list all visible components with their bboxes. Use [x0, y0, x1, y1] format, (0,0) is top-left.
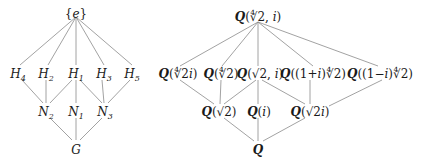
node-Q-fourthroot2: Q(∜2)	[203, 66, 238, 81]
edge	[76, 17, 104, 65]
node-Q-1minusi-fourthroot2: Q((1−i)∜2)	[347, 66, 413, 81]
edge	[50, 80, 72, 103]
edge	[102, 80, 104, 103]
edge	[220, 80, 221, 104]
node-G: G	[71, 143, 81, 157]
node-Q-1plusi-fourthroot2: Q((1+i)∜2)	[280, 66, 346, 81]
galois-correspondence-diagram: {e} H4 H2 H1 H3 H5 N2 N1 N3 G Q(∜2, i) Q…	[0, 0, 429, 160]
node-N3: N3	[96, 105, 113, 121]
right-lattice-edges	[180, 22, 382, 141]
edge	[224, 80, 256, 104]
node-Q-i: Q(i)	[247, 105, 271, 119]
node-identity: {e}	[65, 7, 87, 21]
left-lattice-nodes: {e} H4 H2 H1 H3 H5 N2 N1 N3 G	[9, 7, 140, 157]
edge	[22, 80, 43, 103]
edge	[180, 80, 214, 104]
edge	[48, 17, 76, 65]
node-N1: N1	[67, 105, 84, 121]
node-H5: H5	[123, 67, 140, 83]
node-Q-sqrt2-times-i: Q(√2i)	[291, 105, 330, 119]
node-H2: H2	[37, 67, 54, 83]
edge	[50, 118, 72, 140]
node-H1: H1	[67, 67, 84, 83]
edge	[258, 22, 378, 66]
edge	[263, 118, 305, 141]
edge	[258, 22, 313, 66]
edge	[222, 22, 258, 66]
edge	[224, 118, 254, 141]
edge	[76, 17, 132, 65]
edge	[80, 118, 102, 140]
node-H3: H3	[95, 67, 112, 83]
edge	[80, 80, 102, 103]
node-Q-sqrt2: Q(√2)	[201, 105, 236, 119]
node-N2: N2	[37, 105, 54, 121]
right-lattice-nodes: Q(∜2, i) Q(∜2i) Q(∜2) Q(√2, i) Q((1+i)∜2…	[159, 9, 413, 157]
edge	[20, 17, 76, 65]
edge	[329, 80, 382, 106]
edge	[262, 80, 305, 104]
node-Q-sqrt2-i: Q(√2, i)	[237, 67, 284, 81]
node-Q-fourthroot2-i: Q(∜2, i)	[235, 9, 282, 24]
edge	[108, 80, 130, 103]
node-Q-fourthroot2-times-i: Q(∜2i)	[159, 66, 198, 81]
node-Q: Q	[253, 143, 264, 157]
edge	[180, 22, 258, 66]
node-H4: H4	[9, 67, 26, 83]
